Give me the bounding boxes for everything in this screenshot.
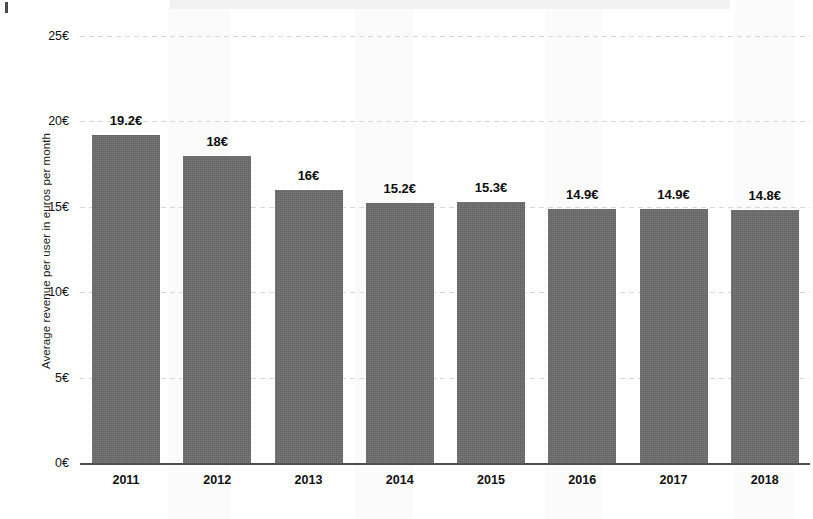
bar[interactable] [92, 135, 160, 463]
bar[interactable] [548, 209, 616, 463]
x-tick-label: 2015 [457, 473, 525, 487]
bar[interactable] [731, 210, 799, 463]
bar-value-label: 14.8€ [731, 188, 799, 203]
bar-group: 18€2012 [171, 36, 262, 463]
y-tick-label: 20€ [48, 114, 69, 128]
y-tick-label: 15€ [48, 200, 69, 214]
chart-page: Average revenue per user in euros per mo… [0, 0, 813, 519]
bar-group: 14.9€2016 [536, 36, 627, 463]
bar[interactable] [457, 202, 525, 463]
y-tick-label: 25€ [48, 29, 69, 43]
bar-value-label: 14.9€ [548, 187, 616, 202]
x-tick-label: 2016 [548, 473, 616, 487]
bar-value-label: 15.3€ [457, 180, 525, 195]
bar-value-label: 14.9€ [640, 187, 708, 202]
x-tick-label: 2018 [731, 473, 799, 487]
bar[interactable] [183, 156, 251, 463]
bar-group: 14.9€2017 [628, 36, 719, 463]
scan-artifact-smudge [170, 0, 730, 9]
bar-group: 19.2€2011 [80, 36, 171, 463]
y-tick-label: 5€ [55, 371, 69, 385]
bar-value-label: 18€ [183, 134, 251, 149]
y-axis-title: Average revenue per user in euros per mo… [40, 121, 52, 381]
bar[interactable] [366, 203, 434, 463]
y-tick-label: 10€ [48, 285, 69, 299]
x-axis-line [80, 463, 810, 465]
x-tick-label: 2013 [275, 473, 343, 487]
bar-group: 14.8€2018 [719, 36, 810, 463]
bar-group: 16€2013 [263, 36, 354, 463]
bar-value-label: 19.2€ [92, 113, 160, 128]
x-tick-label: 2017 [640, 473, 708, 487]
bar[interactable] [640, 209, 708, 463]
bar[interactable] [275, 190, 343, 463]
x-tick-label: 2011 [92, 473, 160, 487]
bar-value-label: 16€ [275, 168, 343, 183]
bar-group: 15.2€2014 [354, 36, 445, 463]
plot-area: 0€5€10€15€20€25€ 19.2€201118€201216€2013… [80, 36, 810, 463]
y-tick-label: 0€ [55, 456, 69, 470]
x-tick-label: 2014 [366, 473, 434, 487]
scan-artifact-mark [5, 2, 8, 13]
bar-value-label: 15.2€ [366, 181, 434, 196]
x-tick-label: 2012 [183, 473, 251, 487]
bar-group: 15.3€2015 [445, 36, 536, 463]
